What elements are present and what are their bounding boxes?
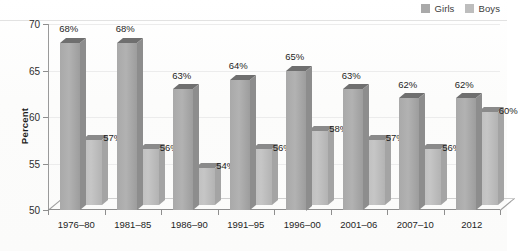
plot-area: 5055606570 57%68%56%68%54%63%56%64%58%65… <box>48 24 500 210</box>
bar-side-face <box>306 65 312 210</box>
x-tick-mark <box>161 210 162 215</box>
x-tick-mark <box>331 210 332 215</box>
bar-face <box>173 89 193 210</box>
bar-side-face <box>137 38 143 210</box>
bar-side-face <box>363 84 369 210</box>
bar-face <box>230 80 250 210</box>
y-tick-label: 55 <box>29 158 40 169</box>
legend-swatch-boys <box>465 4 474 13</box>
bar-value-label-girls: 68% <box>116 24 135 34</box>
y-tick-label: 60 <box>29 112 40 123</box>
bar-girls[interactable] <box>286 71 306 211</box>
chart-legend: Girls Boys <box>421 4 500 14</box>
bar-group: 54%63% <box>161 24 218 210</box>
bar-face <box>60 43 80 210</box>
x-tick-mark <box>105 210 106 215</box>
bar-value-label-girls: 63% <box>172 71 191 81</box>
bar-value-label-girls: 64% <box>229 61 248 71</box>
bar-side-face <box>476 93 482 210</box>
bar-side-face <box>193 84 199 210</box>
bar-group: 58%65% <box>274 24 331 210</box>
x-tick-mark <box>500 210 501 215</box>
bar-face <box>399 98 419 210</box>
legend-item-girls[interactable]: Girls <box>421 4 454 14</box>
bar-value-label-girls: 65% <box>285 52 304 62</box>
legend-swatch-girls <box>421 4 430 13</box>
bar-girls[interactable] <box>343 89 363 210</box>
x-tick-label: 1996–00 <box>284 219 321 230</box>
bar-girls[interactable] <box>230 80 250 210</box>
y-tick-label: 50 <box>29 205 40 216</box>
bar-group: 56%68% <box>105 24 162 210</box>
bar-face <box>286 71 306 211</box>
bar-girls[interactable] <box>117 43 137 210</box>
bar-value-label-girls: 63% <box>342 71 361 81</box>
x-tick-mark <box>444 210 445 215</box>
bar-side-face <box>80 38 86 210</box>
bar-group: 57%68% <box>48 24 105 210</box>
x-tick-label: 2012 <box>461 219 482 230</box>
x-tick-label: 2007–10 <box>397 219 434 230</box>
bar-group: 56%64% <box>218 24 275 210</box>
bar-value-label-girls: 62% <box>398 80 417 90</box>
x-tick-mark <box>387 210 388 215</box>
x-tick-label: 1991–95 <box>227 219 264 230</box>
bar-group: 56%62% <box>387 24 444 210</box>
bar-girls[interactable] <box>456 98 476 210</box>
x-tick-label: 2001–06 <box>340 219 377 230</box>
bar-face <box>456 98 476 210</box>
bar-value-label-girls: 68% <box>59 24 78 34</box>
bar-group: 60%62% <box>444 24 501 210</box>
bar-value-label-boys: 60% <box>499 106 518 116</box>
bar-side-face <box>250 75 256 210</box>
bar-group: 57%63% <box>331 24 388 210</box>
y-tick-label: 65 <box>29 65 40 76</box>
bar-side-face <box>419 93 425 210</box>
x-tick-mark <box>218 210 219 215</box>
x-tick-mark <box>274 210 275 215</box>
x-tick-mark <box>48 210 49 215</box>
y-tick-label: 70 <box>29 19 40 30</box>
legend-divider <box>0 20 507 21</box>
x-tick-label: 1981–85 <box>114 219 151 230</box>
bar-side-face <box>498 107 504 205</box>
bar-face <box>117 43 137 210</box>
bar-girls[interactable] <box>173 89 193 210</box>
bar-value-label-girls: 62% <box>455 80 474 90</box>
bar-face <box>343 89 363 210</box>
x-tick-label: 1986–90 <box>171 219 208 230</box>
legend-item-boys[interactable]: Boys <box>465 4 500 14</box>
legend-label-boys: Boys <box>478 4 500 14</box>
bar-girls[interactable] <box>60 43 80 210</box>
legend-label-girls: Girls <box>434 4 454 14</box>
x-tick-label: 1976–80 <box>58 219 95 230</box>
bar-girls[interactable] <box>399 98 419 210</box>
